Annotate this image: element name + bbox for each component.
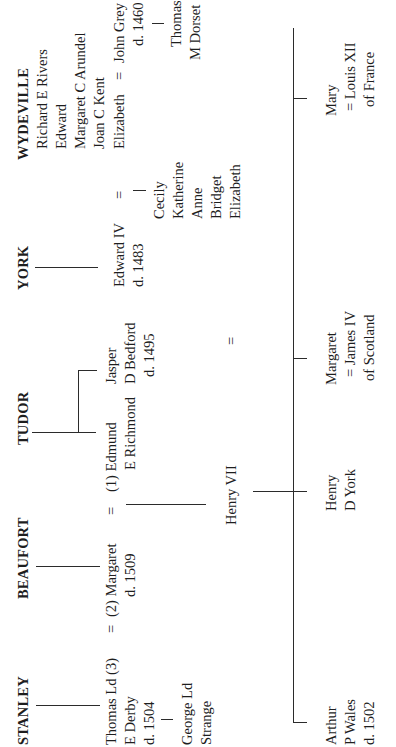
child-mary-spouse: = Louis XII (341, 42, 360, 111)
york-daughter-2: Katherine (169, 162, 188, 219)
child-mary-name: Mary (322, 85, 341, 116)
child-henry-line (293, 491, 307, 492)
child-mary-line (293, 98, 307, 99)
edmund-tudor-name: (1) Edmund (102, 422, 121, 492)
wydeville-grey-marriage-sign: = (110, 72, 129, 80)
family-header-stanley: STANLEY (14, 676, 33, 745)
john-grey-name: John Grey (110, 3, 129, 63)
beaufort-tudor-marriage-sign: = (102, 507, 121, 515)
wydeville-member-4: Joan C Kent (90, 77, 109, 149)
george-stanley-name: George Ld (178, 683, 197, 745)
jasper-descent-line (78, 370, 97, 371)
family-header-wydeville: WYDEVILLE (14, 68, 33, 160)
elizabeth-wydeville-name: Elizabeth (110, 94, 129, 149)
edmund-tudor-title: E Richmond (121, 397, 140, 470)
henry-vii-descent-line (126, 504, 206, 505)
child-margaret-spouse-country: of Scotland (360, 315, 379, 381)
york-daughter-3: Anne (188, 188, 207, 219)
edward-iv-name: Edward IV (110, 223, 129, 287)
family-header-york: YORK (14, 246, 33, 290)
margaret-beaufort-death: d. 1509 (121, 554, 140, 598)
child-margaret-spouse: = James IV (341, 311, 360, 377)
york-daughter-4: Bridget (207, 176, 226, 220)
henry-vii-name: Henry VII (222, 465, 241, 525)
family-header-tudor: TUDOR (14, 392, 33, 445)
wydeville-member-3: Margaret C Arundel (71, 32, 90, 149)
grey-child-line (152, 23, 164, 24)
tudor-descent-line (32, 432, 96, 433)
jasper-tudor-name: Jasper (102, 348, 121, 384)
child-arthur-death: d. 1502 (360, 702, 379, 746)
thomas-stanley-title: E Derby (121, 696, 140, 745)
thomas-grey-title: M Dorset (186, 5, 205, 60)
children-sibling-bar (293, 28, 294, 723)
george-stanley-title: Strange (197, 701, 216, 745)
jasper-tudor-title: D Bedford (121, 322, 140, 384)
child-margaret-name: Margaret (322, 332, 341, 385)
york-daughter-1: Cecily (150, 181, 169, 219)
york-daughter-5: Elizabeth (226, 164, 245, 219)
jasper-tudor-death: d. 1495 (140, 334, 159, 378)
stanley-child-line (161, 719, 173, 720)
york-children-line (133, 190, 146, 191)
thomas-stanley-death: d. 1504 (140, 702, 159, 746)
edward-iv-death: d. 1483 (129, 244, 148, 288)
child-arthur-name: Arthur (322, 706, 341, 745)
child-arthur-title: P Wales (341, 699, 360, 745)
john-grey-death: d. 1460 (129, 3, 148, 47)
child-henry-name: Henry (322, 475, 341, 511)
child-arthur-line (293, 722, 307, 723)
wydeville-member-2: Edward (52, 104, 71, 149)
henry-vii-marriage-sign: = (222, 337, 241, 345)
york-wydeville-marriage-sign: = (110, 191, 129, 199)
family-header-beaufort: BEAUFORT (14, 517, 33, 599)
child-henry-title: D York (341, 469, 360, 511)
child-mary-spouse-country: of France (360, 52, 379, 107)
thomas-stanley-name: Thomas Ld (3) (102, 658, 121, 745)
york-descent-line (35, 267, 98, 268)
margaret-beaufort-name: (2) Margaret (102, 544, 121, 617)
stanley-descent-line (36, 705, 100, 706)
thomas-grey-name: Thomas (167, 0, 186, 47)
beaufort-descent-line (36, 566, 100, 567)
stanley-beaufort-marriage-sign: = (102, 625, 121, 633)
genealogy-chart: STANLEY BEAUFORT TUDOR YORK WYDEVILLE Th… (0, 0, 396, 747)
tudor-sibling-bracket (78, 371, 79, 433)
wydeville-member-1: Richard E Rivers (33, 49, 52, 149)
child-margaret-line (293, 358, 307, 359)
